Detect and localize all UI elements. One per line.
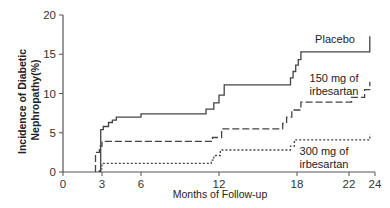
y-axis-title-line-2: Nephropathy(%) bbox=[29, 59, 41, 140]
series-label: 300 mg ofirbesartan bbox=[300, 145, 350, 170]
x-tick-label: 6 bbox=[138, 178, 144, 190]
kaplan-meier-chart: 0510152003612182224 Placebo150 mg ofirbe… bbox=[0, 0, 390, 208]
y-axis-title: Incidence of Diabetic Nephropathy(%) bbox=[16, 46, 41, 154]
y-tick-label: 20 bbox=[43, 9, 56, 21]
y-tick-label: 0 bbox=[50, 166, 56, 178]
y-axis-title-line-1: Incidence of Diabetic bbox=[16, 49, 28, 154]
y-tick-label: 10 bbox=[43, 88, 56, 100]
x-tick-label: 3 bbox=[99, 178, 105, 190]
series-label: Placebo bbox=[315, 33, 355, 45]
x-tick-label: 0 bbox=[60, 178, 66, 190]
y-tick-label: 5 bbox=[50, 127, 56, 139]
series-label: 150 mg ofirbesartan bbox=[310, 72, 360, 97]
x-tick-label: 24 bbox=[369, 178, 382, 190]
x-tick-label: 22 bbox=[343, 178, 356, 190]
x-axis-title: Months of Follow-up bbox=[173, 188, 268, 200]
y-tick-label: 15 bbox=[43, 48, 56, 60]
x-tick-label: 18 bbox=[291, 178, 304, 190]
